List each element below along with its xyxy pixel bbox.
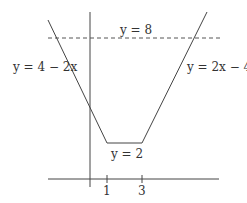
label-left-line: y = 4 − 2x <box>13 61 77 73</box>
label-y8: y = 8 <box>120 24 152 36</box>
label-bottom-segment: y = 2 <box>111 148 143 160</box>
graph-diagram: y = 8 y = 4 − 2x y = 2x − 4 y = 2 1 3 <box>0 0 247 203</box>
x-tick-label-3: 3 <box>138 185 146 197</box>
label-right-line: y = 2x − 4 <box>187 61 247 73</box>
x-tick-label-1: 1 <box>103 185 111 197</box>
